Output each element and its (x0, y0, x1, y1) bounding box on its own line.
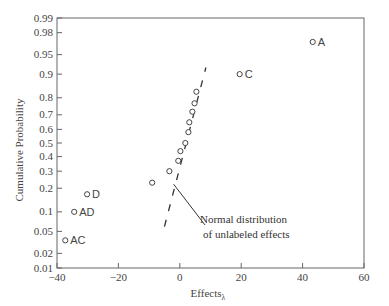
y-tick-label: 0.6 (39, 123, 53, 135)
y-tick-label: 0.9 (39, 68, 53, 80)
data-point (187, 120, 192, 125)
point-label-ac: AC (70, 234, 85, 246)
y-tick-label: 0.4 (39, 150, 53, 162)
y-tick-label: 0.2 (39, 182, 53, 194)
data-point-ac (63, 238, 68, 243)
point-label-d: D (92, 188, 100, 200)
data-point (192, 101, 197, 106)
normal-fit-line (164, 68, 205, 227)
point-label-c: C (245, 68, 253, 80)
x-tick-label: −40 (48, 271, 66, 283)
data-point (176, 158, 181, 163)
x-axis-title-main: Effects (191, 287, 222, 299)
normal-probability-plot: 0.010.020.050.10.20.30.40.50.60.70.80.90… (0, 0, 389, 306)
annotation-text-line1: Normal distribution (200, 213, 288, 225)
y-axis-title: Cumulative Probability (13, 98, 25, 201)
y-tick-label: 0.1 (39, 205, 53, 217)
data-point (150, 180, 155, 185)
annotation: Normal distributionof unlabeled effects (174, 184, 290, 240)
data-point (178, 149, 183, 154)
x-tick-label: 40 (297, 271, 309, 283)
x-axis-title: Effectsλ (191, 287, 226, 302)
point-label-ad: AD (79, 206, 94, 218)
data-point (167, 169, 172, 174)
y-tick-label: 0.5 (39, 137, 53, 149)
data-point (190, 109, 195, 114)
data-point-a (310, 39, 315, 44)
y-tick-label: 0.7 (39, 108, 53, 120)
point-label-a: A (318, 36, 326, 48)
data-point (183, 140, 188, 145)
y-tick-label: 0.02 (34, 247, 53, 259)
y-tick-label: 0.05 (34, 225, 54, 237)
data-point (186, 130, 191, 135)
x-tick-label: 0 (177, 271, 183, 283)
data-point-ad (72, 209, 77, 214)
x-tick-label: 60 (359, 271, 371, 283)
reference-line (164, 68, 205, 227)
y-tick-label: 0.95 (34, 48, 54, 60)
y-tick-label: 0.99 (34, 12, 54, 24)
annotation-text-line2: of unlabeled effects (203, 228, 290, 240)
y-tick-label: 0.98 (34, 26, 54, 38)
data-point-c (237, 72, 242, 77)
x-axis-ticks: −40−200204060 (48, 263, 370, 283)
y-tick-label: 0.8 (39, 91, 53, 103)
y-tick-label: 0.3 (39, 165, 53, 177)
data-point-d (84, 192, 89, 197)
y-axis-ticks: 0.010.020.050.10.20.30.40.50.60.70.80.90… (34, 12, 62, 274)
data-point (194, 89, 199, 94)
x-axis-title-subscript: λ (222, 293, 226, 302)
x-tick-label: −20 (110, 271, 128, 283)
x-tick-label: 20 (236, 271, 248, 283)
